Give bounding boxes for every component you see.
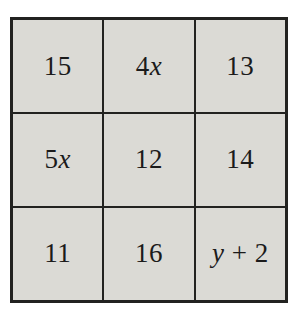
grid-cell-r1c3: 13 <box>195 19 287 114</box>
page: 15 4x 13 5x 12 14 11 16 y + 2 <box>0 0 307 315</box>
grid-cell-r2c2: 12 <box>103 113 194 206</box>
table-row: 11 16 y + 2 <box>12 207 287 302</box>
grid-cell-r1c2: 4x <box>103 19 194 114</box>
grid-cell-r2c1: 5x <box>12 113 104 206</box>
grid-cell-r2c3: 14 <box>195 113 287 206</box>
grid-cell-r3c2: 16 <box>103 207 194 302</box>
variable-glyph: x <box>150 51 162 81</box>
table-row: 15 4x 13 <box>12 19 287 114</box>
grid-cell-r1c1: 15 <box>12 19 104 114</box>
grid-cell-r3c1: 11 <box>12 207 104 302</box>
grid-cell-r3c3: y + 2 <box>195 207 287 302</box>
magic-square-table: 15 4x 13 5x 12 14 11 16 y + 2 <box>10 17 288 303</box>
variable-glyph: x <box>58 144 70 174</box>
table-row: 5x 12 14 <box>12 113 287 206</box>
variable-glyph: y <box>212 238 224 268</box>
